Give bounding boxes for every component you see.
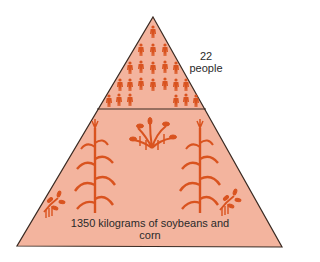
people-count: 22 [186,51,226,63]
people-count-label: 22 people [186,51,226,74]
people-unit: people [186,63,226,75]
crop-mass-label: 1350 kilograms of soybeans and corn [60,218,240,241]
